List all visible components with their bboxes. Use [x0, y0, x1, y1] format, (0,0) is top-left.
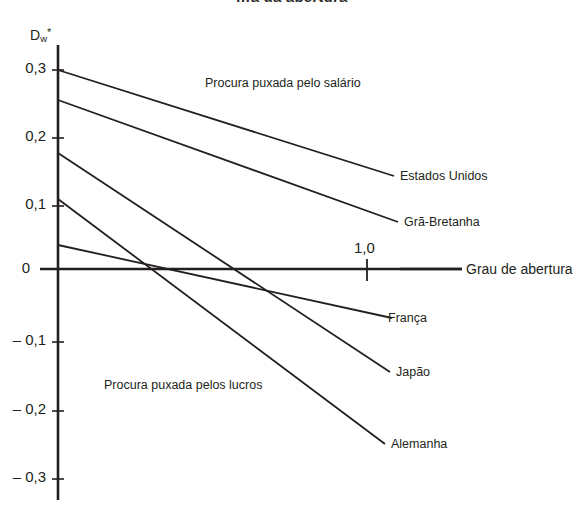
y-tick-label-neg-0-2: – 0,2: [0, 401, 46, 416]
annotation-wage-led-demand: Procura puxada pelo salário: [205, 77, 361, 90]
y-axis-title: Dw*: [30, 28, 51, 42]
y-tick-label-neg-0-1: – 0,1: [0, 332, 46, 347]
y-tick-label-0-2: 0,2: [0, 128, 46, 143]
chart-page: …a da abertura Dw* 0,3 0,2 0,1 0 – 0,1 –…: [0, 0, 583, 511]
y-axis-title-main: D: [30, 27, 40, 43]
series-label-japao: Japão: [396, 366, 430, 379]
y-tick-label-neg-0-3: – 0,3: [0, 469, 46, 484]
series-label-alemanha: Alemanha: [391, 438, 447, 451]
y-tick-label-0-3: 0,3: [0, 60, 46, 75]
y-axis-title-sub: w: [40, 33, 47, 44]
series-line-japao: [58, 153, 390, 372]
x-axis-title: Grau de abertura: [466, 262, 573, 276]
series-line-franca: [58, 245, 392, 318]
series-label-gra-bretanha: Grã-Bretanha: [404, 216, 480, 229]
series-label-estados-unidos: Estados Unidos: [400, 170, 488, 183]
series-label-franca: França: [388, 312, 427, 325]
annotation-profit-led-demand: Procura puxada pelos lucros: [104, 379, 262, 392]
y-tick-label-0: 0: [0, 260, 30, 275]
x-tick-label-1-0: 1,0: [354, 240, 375, 255]
y-axis-title-sup: *: [47, 26, 51, 38]
y-tick-label-0-1: 0,1: [0, 196, 46, 211]
series-line-alemanha: [58, 199, 385, 444]
